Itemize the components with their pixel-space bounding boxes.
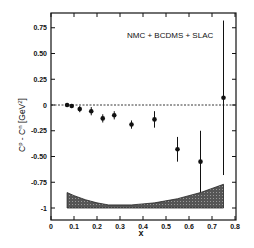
y-tick-label: 0.25 xyxy=(33,76,47,83)
x-tick-label: 0.3 xyxy=(115,223,125,230)
plot-frame xyxy=(51,13,236,220)
chart: 00.10.20.30.40.50.60.70.8 0.750.500.250-… xyxy=(0,0,254,248)
y-tick-label: -0.50 xyxy=(31,153,47,160)
data-point xyxy=(65,103,70,108)
x-axis-label: x xyxy=(138,228,143,238)
y-tick-label: 0.50 xyxy=(33,50,47,57)
y-tick-label: -0.75 xyxy=(31,179,47,186)
x-tick-label: 0.1 xyxy=(69,223,79,230)
x-tick-label: 0.8 xyxy=(230,223,240,230)
svg-text:Cp - Cn [GeV2]: Cp - Cn [GeV2] xyxy=(17,98,27,152)
data-point xyxy=(198,159,203,164)
data-point xyxy=(129,122,134,127)
data-point xyxy=(221,95,226,100)
y-tick-label: 0.75 xyxy=(33,24,47,31)
x-tick-label: 0.7 xyxy=(207,223,217,230)
y-tick-label: -0.25 xyxy=(31,127,47,134)
x-tick-label: 0.6 xyxy=(184,223,194,230)
y-tick-label: -1 xyxy=(41,205,47,212)
y-axis-ticks: 0.750.500.250-0.25-0.50-0.75-1 xyxy=(31,24,236,211)
data-point xyxy=(89,109,94,114)
annotation-label: NMC + BCDMS + SLAC xyxy=(127,31,213,40)
x-tick-label: 0.2 xyxy=(92,223,102,230)
data-point xyxy=(152,117,157,122)
x-tick-label: 0 xyxy=(49,223,53,230)
data-point xyxy=(112,113,117,118)
data-point xyxy=(69,104,74,109)
data-point xyxy=(175,147,180,152)
y-tick-label: 0 xyxy=(43,102,47,109)
y-axis-label: Cp - Cn [GeV2] xyxy=(17,98,27,152)
data-point xyxy=(77,107,82,112)
data-point xyxy=(100,116,105,121)
x-tick-label: 0.5 xyxy=(161,223,171,230)
data-points xyxy=(65,21,226,193)
